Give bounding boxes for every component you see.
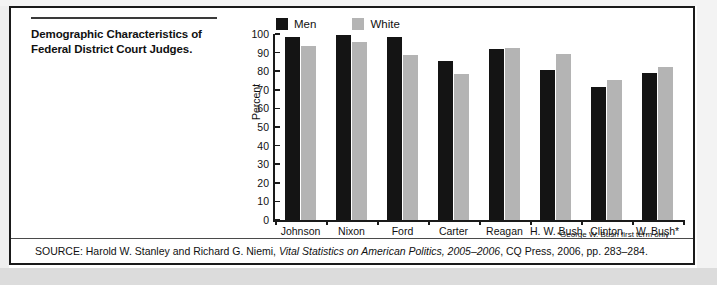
bar-white (556, 54, 571, 220)
source-suffix: , CQ Press, 2006, pp. 283–284. (500, 245, 648, 257)
bars-container: JohnsonNixonFordCarterReaganH. W. BushCl… (275, 34, 683, 220)
bar-group (479, 34, 530, 220)
title-rule (31, 17, 217, 19)
source-citation: SOURCE: Harold W. Stanley and Richard G.… (35, 245, 648, 257)
figure-box: Demographic Characteristics of Federal D… (9, 6, 695, 265)
x-axis-category-label: Ford (377, 225, 428, 237)
bar-group (581, 34, 632, 220)
bar-pair (275, 34, 326, 220)
bar-pair (632, 34, 683, 220)
source-divider (11, 238, 693, 239)
chart-title-line-2: Federal District Court Judges. (31, 42, 227, 57)
y-axis-tick-label: 90 (257, 48, 269, 58)
chart-title-line-1: Demographic Characteristics of (31, 27, 227, 42)
bar-white (403, 55, 418, 220)
bar-group (530, 34, 581, 220)
y-axis-tick-label: 70 (257, 85, 269, 95)
y-axis-tick-label: 50 (257, 122, 269, 132)
page-canvas: Demographic Characteristics of Federal D… (0, 0, 717, 285)
bar-men (642, 73, 657, 220)
legend-item-white: White (352, 18, 399, 30)
y-axis-tick-mark (275, 89, 280, 91)
bar-men (285, 37, 300, 220)
legend-label: Men (294, 18, 316, 30)
bar-men (387, 37, 402, 220)
legend-label: White (370, 18, 399, 30)
legend-item-men: Men (276, 18, 316, 30)
legend-swatch-icon (352, 18, 364, 30)
chart-legend: MenWhite (276, 18, 400, 30)
bar-men (336, 35, 351, 220)
source-publication-title: Vital Statistics on American Politics, 2… (279, 245, 500, 257)
bar-white (454, 74, 469, 220)
y-axis-tick-mark (275, 126, 280, 128)
y-axis-tick-mark (275, 219, 280, 221)
y-axis-tick-mark (275, 52, 280, 54)
bar-white (301, 46, 316, 220)
x-axis-category-label: Johnson (275, 225, 326, 237)
y-axis-tick-mark (275, 201, 280, 203)
bar-group (275, 34, 326, 220)
bar-white (505, 48, 520, 220)
scan-edge-left (0, 0, 9, 285)
bar-pair (377, 34, 428, 220)
x-axis-category-label: Reagan (479, 225, 530, 237)
bar-men (540, 70, 555, 220)
y-axis-tick-mark (275, 108, 280, 110)
source-prefix: SOURCE: Harold W. Stanley and Richard G.… (35, 245, 279, 257)
bar-pair (326, 34, 377, 220)
bar-group (326, 34, 377, 220)
y-axis-tick-label: 40 (257, 141, 269, 151)
bar-pair (581, 34, 632, 220)
x-axis-tick-mark (683, 220, 685, 225)
y-axis-tick-label: 80 (257, 66, 269, 76)
y-axis-tick-mark (275, 70, 280, 72)
y-axis-tick-mark (275, 33, 280, 35)
bar-pair (530, 34, 581, 220)
chart-plot-area: Percent 0102030405060708090100 JohnsonNi… (227, 34, 687, 234)
y-axis-tick-label: 60 (257, 103, 269, 113)
bar-group (428, 34, 479, 220)
legend-swatch-icon (276, 18, 288, 30)
bar-white (352, 42, 367, 220)
bar-men (591, 87, 606, 220)
bar-group (377, 34, 428, 220)
y-axis-tick-mark (275, 182, 280, 184)
bar-white (658, 67, 673, 220)
bar-pair (479, 34, 530, 220)
x-axis-category-label: Nixon (326, 225, 377, 237)
bar-men (489, 49, 504, 220)
y-axis-tick-mark (275, 145, 280, 147)
scan-edge-bottom (0, 268, 717, 285)
y-axis-tick-label: 0 (263, 215, 269, 225)
bar-men (438, 61, 453, 220)
page-title: Demographic Characteristics of Federal D… (31, 27, 227, 57)
title-block: Demographic Characteristics of Federal D… (31, 17, 227, 57)
x-axis-line (273, 220, 683, 222)
bar-group (632, 34, 683, 220)
scan-edge-right (697, 0, 717, 285)
y-axis-tick-label: 100 (251, 29, 269, 39)
y-axis-tick-label: 10 (257, 196, 269, 206)
bar-white (607, 80, 622, 220)
y-axis-tick-label: 30 (257, 159, 269, 169)
bar-pair (428, 34, 479, 220)
y-axis-tick-label: 20 (257, 178, 269, 188)
x-axis-category-label: Carter (428, 225, 479, 237)
y-axis-tick-mark (275, 163, 280, 165)
y-axis-tick-labels: 0102030405060708090100 (245, 34, 269, 220)
